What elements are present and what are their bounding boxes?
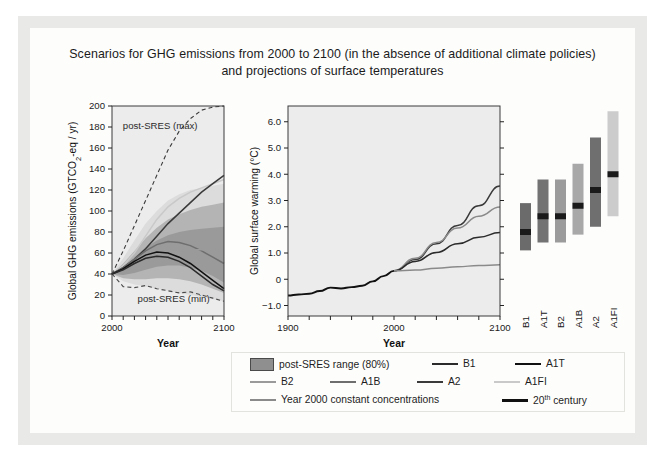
panel1-ytick-label: 80 <box>94 226 105 237</box>
scenario-best-estimate-a2 <box>590 187 601 193</box>
panel2-ytick-label: 0 <box>276 274 281 285</box>
scenario-bar-a2 <box>590 138 601 227</box>
legend-label-year2000-constant: Year 2000 constant concentrations <box>281 394 439 405</box>
legend-item-20th-century: 20th century <box>502 394 587 406</box>
panel1-ytick-label: 40 <box>94 268 105 279</box>
scenario-bar-label-a2: A2 <box>590 316 601 328</box>
scenario-bar-label-b2: B2 <box>555 316 566 328</box>
panel2-ytick-label: 6.0 <box>268 116 281 127</box>
panel1-ytick-label: 100 <box>89 205 105 216</box>
scenario-bar-b1 <box>520 203 531 250</box>
legend-label-post-sres-range: post-SRES range (80%) <box>279 359 389 370</box>
scenario-bar-b2 <box>555 180 566 243</box>
panel2-yaxis-title: Global surface warming (°C) <box>249 147 260 275</box>
panel1-ytick-label: 0 <box>100 310 105 321</box>
legend-line-a1b <box>330 381 356 383</box>
legend-label-b1: B1 <box>463 358 476 369</box>
scenario-best-estimate-b2 <box>555 213 566 219</box>
scenario-best-estimate-a1t <box>538 213 549 219</box>
panel2-xtick-label: 2100 <box>489 322 510 333</box>
panel1-xtick-label: 2100 <box>213 322 234 333</box>
scenario-best-estimate-a1fi <box>608 171 619 177</box>
panel1-xaxis-title: Year <box>157 338 179 349</box>
panel1-ytick-label: 200 <box>89 100 105 111</box>
panel2-ytick-label: 1.0 <box>268 247 281 258</box>
legend-line-20th-century <box>502 399 528 402</box>
legend-line-b1 <box>432 363 458 365</box>
panel2-bg <box>288 106 500 316</box>
panel1-ytick-label: 140 <box>89 163 105 174</box>
panel1-ytick-label: 20 <box>94 289 105 300</box>
legend-label-a2: A2 <box>448 376 461 387</box>
scenario-best-estimate-b1 <box>520 229 531 235</box>
scenario-bar-label-b1: B1 <box>520 316 531 328</box>
legend-line-b2 <box>250 381 276 383</box>
legend-line-year2000-constant <box>250 399 276 401</box>
scenario-bar-a1b <box>573 164 584 235</box>
legend-item-a1b: A1B <box>330 376 380 387</box>
panel1-xtick-label: 2000 <box>101 322 122 333</box>
scenario-bar-label-a1t: A1T <box>538 310 549 328</box>
panel2-ytick-label: 4.0 <box>268 169 281 180</box>
legend-item-b1: B1 <box>432 358 476 369</box>
legend-item-a2: A2 <box>417 376 461 387</box>
legend-item-post-sres-range: post-SRES range (80%) <box>250 358 389 371</box>
legend-item-a1t: A1T <box>515 358 565 369</box>
scenario-bar-a1t <box>538 180 549 243</box>
legend-label-b2: B2 <box>281 376 294 387</box>
panel2-xaxis-title: Year <box>383 338 405 349</box>
panel1-ytick-label: 60 <box>94 247 105 258</box>
legend-item-b2: B2 <box>250 376 294 387</box>
panel1-ytick-label: 180 <box>89 121 105 132</box>
scenario-bar-label-a1b: A1B <box>573 310 584 328</box>
legend-item-a1fi: A1FI <box>494 376 547 387</box>
scenario-bar-a1fi <box>608 111 619 216</box>
panel1-annotation-0: post-SRES (max) <box>123 120 198 131</box>
panel2-ytick-label: 3.0 <box>268 195 281 206</box>
legend: post-SRES range (80%) B1 A1T B2 A1B <box>231 352 625 412</box>
post-sres-range-swatch <box>250 358 274 371</box>
panel2-ytick-label: 5.0 <box>268 142 281 153</box>
panel1-annotation-1: post-SRES (min) <box>138 293 210 304</box>
figure-page: Scenarios for GHG emissions from 2000 to… <box>0 0 665 461</box>
legend-line-a2 <box>417 381 443 383</box>
century-number: 20 <box>533 395 544 406</box>
legend-label-a1fi: A1FI <box>525 376 547 387</box>
century-word: century <box>550 395 587 406</box>
legend-line-a1t <box>515 363 541 365</box>
panel1-ytick-label: 120 <box>89 184 105 195</box>
legend-label-a1t: A1T <box>546 358 565 369</box>
legend-line-a1fi <box>494 381 520 383</box>
panel2-xtick-label: 2000 <box>383 322 404 333</box>
scenario-bar-label-a1fi: A1FI <box>608 308 619 328</box>
scenario-best-estimate-a1b <box>573 203 584 209</box>
panel1-ytick-label: 160 <box>89 142 105 153</box>
panel1-yaxis-title: Global GHG emissions (GTCO2-eq / yr) <box>67 122 83 301</box>
panel2-ytick-label: 2.0 <box>268 221 281 232</box>
legend-label-a1b: A1B <box>361 376 380 387</box>
legend-label-20th-century: 20th century <box>533 394 587 406</box>
panel2-ytick-label: −1.0 <box>262 300 281 311</box>
legend-item-year2000-constant: Year 2000 constant concentrations <box>250 394 439 405</box>
panel2-xtick-label: 1900 <box>277 322 298 333</box>
